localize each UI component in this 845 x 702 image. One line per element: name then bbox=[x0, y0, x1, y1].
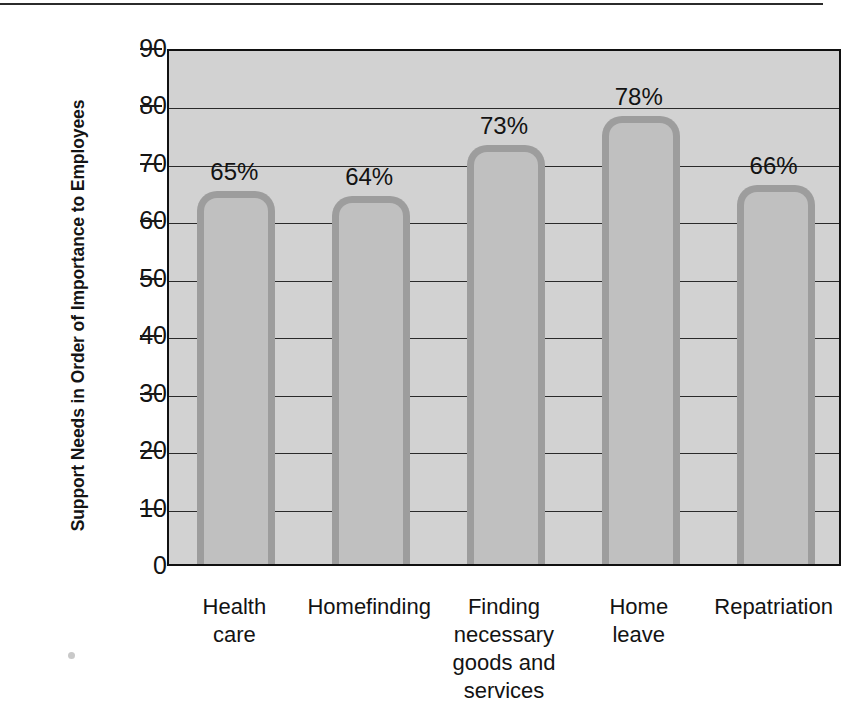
bar bbox=[602, 116, 680, 564]
y-axis-tick-mark bbox=[140, 163, 162, 165]
y-axis-tick-mark bbox=[140, 335, 162, 337]
x-axis-label-group: HealthcareHomefindingFinding necessarygo… bbox=[167, 593, 841, 693]
bar-data-label: 66% bbox=[714, 154, 834, 178]
y-axis-tick-mark bbox=[140, 450, 162, 452]
x-axis-category-label: Repatriation bbox=[706, 593, 841, 621]
bar-chart: Support Needs in Order of Importance to … bbox=[40, 16, 845, 698]
y-axis-tick-label: 0 bbox=[111, 553, 167, 578]
x-axis-category-label: Finding necessarygoods andservices bbox=[437, 593, 572, 702]
y-axis-tick-mark bbox=[140, 48, 162, 50]
x-axis-category-label: Healthcare bbox=[167, 593, 302, 649]
x-axis-category-label-line: goods and bbox=[437, 649, 572, 677]
y-axis-tick-mark bbox=[140, 220, 162, 222]
x-axis-category-label-line: care bbox=[167, 621, 302, 649]
bar-data-label: 78% bbox=[579, 85, 699, 109]
page-top-rule bbox=[0, 3, 823, 5]
y-axis-tick-mark bbox=[140, 508, 162, 510]
bar-data-label: 73% bbox=[444, 114, 564, 138]
y-axis-tick-mark bbox=[140, 393, 162, 395]
x-axis-category-label-line: Repatriation bbox=[706, 593, 841, 621]
x-axis-category-label: Homefinding bbox=[302, 593, 437, 621]
bar-data-label: 65% bbox=[174, 160, 294, 184]
bar-data-label: 64% bbox=[309, 165, 429, 189]
bar bbox=[737, 185, 815, 564]
bar bbox=[332, 196, 410, 564]
x-axis-category-label-line: Home bbox=[571, 593, 706, 621]
x-axis-category-label-line: leave bbox=[571, 621, 706, 649]
y-axis-tick-mark bbox=[140, 105, 162, 107]
bar bbox=[467, 145, 545, 564]
x-axis-category-label-line: Finding necessary bbox=[437, 593, 572, 649]
x-axis-category-label-line: services bbox=[437, 677, 572, 702]
x-axis-category-label: Homeleave bbox=[571, 593, 706, 649]
x-axis-category-label-line: Homefinding bbox=[302, 593, 437, 621]
x-axis-category-label-line: Health bbox=[167, 593, 302, 621]
gridline bbox=[169, 108, 839, 109]
bar bbox=[197, 191, 275, 564]
y-axis-tick-group: 0102030405060708090 bbox=[76, 16, 167, 698]
y-axis-tick-mark bbox=[140, 278, 162, 280]
